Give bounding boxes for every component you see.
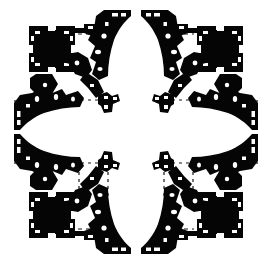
chapel-walls-sw [29, 192, 75, 238]
floor-plan-drawing [0, 0, 272, 264]
chapel-walls-nw [29, 26, 75, 72]
chapel-walls-ne [197, 26, 243, 72]
chapel-walls-se [197, 192, 243, 238]
floor-plan-figure: Centralized Greek-cross church plan [0, 0, 272, 264]
